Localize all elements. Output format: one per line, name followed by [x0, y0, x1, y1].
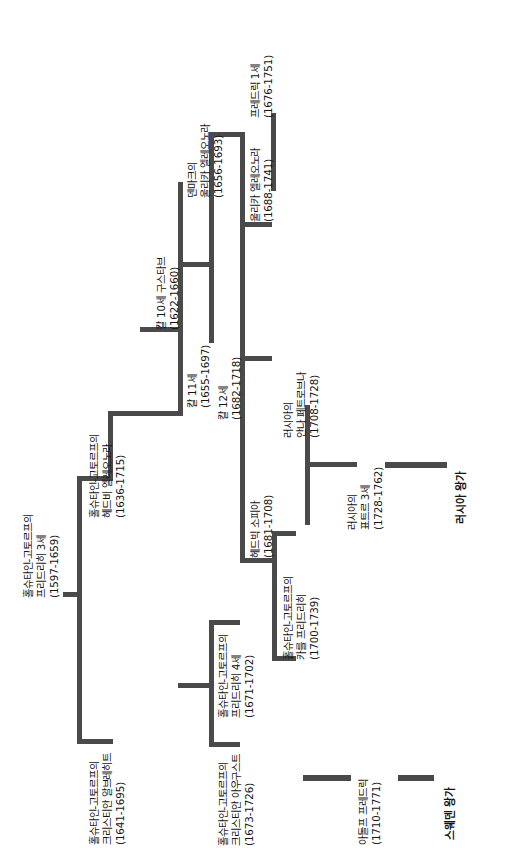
node-line: (1636-1715) [114, 434, 127, 518]
node-peter3: 러시아의 표트르 3세 (1728-1762) [346, 467, 386, 530]
connector-karl11-children-spine [240, 132, 245, 562]
node-line: 안나 페트로브나 [295, 373, 308, 438]
node-line: (1597-1659) [48, 514, 61, 598]
node-frederick1: 프레드릭 1세 (1676-1751) [249, 55, 275, 118]
node-line: 홀슈타인-고토르프의 [282, 576, 295, 660]
node-line: 프레드릭 1세 [249, 55, 262, 118]
node-line: 아돌프 프레드릭 [357, 780, 370, 845]
connector-karl11-spine [209, 198, 214, 343]
node-line: 프리드리히 4세 [230, 634, 243, 718]
node-line: (1708-1728) [308, 373, 321, 438]
connector-karlfriedrich-top [272, 531, 296, 536]
node-line: (1682-1718) [230, 357, 243, 420]
node-line: (1710-1771) [370, 780, 383, 845]
node-line: 홀슈타인-고토르프의 [217, 754, 230, 846]
node-karl12: 칼 12세 (1682-1718) [217, 357, 243, 420]
node-line: 헤드빅 소피아 [249, 495, 262, 558]
node-karl-friedrich: 홀슈타인-고토르프의 카를 프리드리히 (1700-1739) [282, 576, 322, 660]
node-line: 홀슈타인-고토르프의 [88, 753, 101, 845]
connector-ca-join [178, 683, 211, 688]
node-hedvig-sophia: 헤드빅 소피아 (1681-1708) [249, 495, 275, 558]
node-line: 덴마크의 [186, 124, 199, 198]
node-frederick3: 홀슈타인-고토르프의 프리드리히 3세 (1597-1659) [22, 514, 62, 598]
node-swedish-royal-house: 스웨덴 왕가 [444, 787, 458, 840]
node-line: 칼 10세 구스타브 [155, 257, 168, 330]
node-frederick4: 홀슈타인-고토르프의 프리드리히 4세 (1671-1702) [217, 634, 257, 718]
connector-peter3-to-russia [385, 462, 447, 468]
node-christian-albrecht: 홀슈타인-고토르프의 크리스티안 알브레히트 (1641-1695) [88, 753, 128, 845]
connector-frederick3-spine [77, 476, 82, 744]
node-line: 표트르 3세 [359, 467, 372, 530]
node-line: 홀슈타인-고토르프의 [88, 434, 101, 518]
node-ulrika-eleonora: 울리카 엘레오노라 (1688-1741) [249, 148, 275, 222]
node-karl10: 칼 10세 구스타브 (1622-1660) [155, 257, 181, 330]
node-line: (1700-1739) [308, 576, 321, 660]
connector-adolf-link [303, 775, 351, 781]
node-ulrika-eleonora-denmark: 덴마크의 울리카 엘레오노라 (1656-1693) [186, 124, 226, 198]
node-karl11: 칼 11세 (1655-1697) [186, 345, 212, 408]
node-line: 크리스티안 알브레히트 [101, 753, 114, 845]
connector-swedish-link [398, 775, 434, 781]
connector-ca-to-caug [209, 742, 240, 747]
node-line: 크리스티안 아우구스트 [230, 754, 243, 846]
node-line: (1656-1693) [212, 124, 225, 198]
node-line: (1676-1751) [262, 55, 275, 118]
connector-ulrika-e-stub [240, 222, 272, 227]
node-christian-august: 홀슈타인-고토르프의 크리스티안 아우구스트 (1673-1726) [217, 754, 257, 846]
connector-ca-to-f4 [209, 620, 240, 625]
node-line: (1622-1660) [168, 257, 181, 330]
node-line: 러시아 왕가 [455, 471, 469, 524]
node-line: 울리카 엘레오노라 [199, 124, 212, 198]
node-line: 울리카 엘레오노라 [249, 148, 262, 222]
node-line: (1688-1741) [262, 148, 275, 222]
node-line: 러시아의 [282, 373, 295, 438]
node-anna-petrovna: 러시아의 안나 페트로브나 (1708-1728) [282, 373, 322, 438]
node-line: 러시아의 [346, 467, 359, 530]
connector-christian-albrecht-branch [77, 739, 113, 744]
node-line: (1671-1702) [243, 634, 256, 718]
node-line: 프리드리히 3세 [35, 514, 48, 598]
node-line: 홀슈타인-고토르프의 [217, 634, 230, 718]
node-line: 헤드비 엘레오노라 [101, 434, 114, 518]
node-line: 카를 프리드리히 [295, 576, 308, 660]
connector-karl10-join [108, 411, 183, 416]
connector-hedvig-sophia-stub [240, 558, 272, 563]
node-russian-royal-house: 러시아 왕가 [455, 471, 469, 524]
family-tree-diagram: 홀슈타인-고토르프의 프리드리히 3세 (1597-1659) 홀슈타인-고토르… [0, 0, 529, 848]
node-hedvig-eleonora: 홀슈타인-고토르프의 헤드비 엘레오노라 (1636-1715) [88, 434, 128, 518]
connector-frederick3-stub [63, 592, 78, 597]
connector-karl11-to-parent [178, 262, 214, 267]
node-line: 홀슈타인-고토르프의 [22, 514, 35, 598]
node-line: (1641-1695) [114, 753, 127, 845]
node-line: 스웨덴 왕가 [444, 787, 458, 840]
node-line: 칼 12세 [217, 357, 230, 420]
node-line: (1681-1708) [262, 495, 275, 558]
node-line: (1728-1762) [372, 467, 385, 530]
node-line: (1655-1697) [199, 345, 212, 408]
node-line: 칼 11세 [186, 345, 199, 408]
connector-karl12-stub [240, 356, 272, 361]
connector-lines [0, 0, 529, 848]
node-adolf-frederick: 아돌프 프레드릭 (1710-1771) [357, 780, 383, 845]
node-line: (1673-1726) [243, 754, 256, 846]
